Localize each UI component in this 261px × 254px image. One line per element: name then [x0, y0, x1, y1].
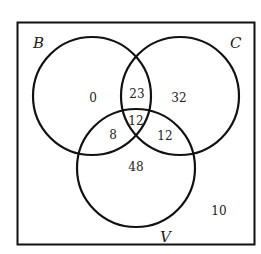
- region-b-c-v: 12: [128, 114, 143, 128]
- region-b-and-c: 23: [129, 87, 144, 101]
- set-label-b: B: [32, 34, 44, 52]
- region-b-only: 0: [89, 91, 97, 105]
- region-b-and-v: 8: [109, 128, 117, 142]
- region-c-and-v: 12: [157, 129, 172, 143]
- region-outside: 10: [211, 204, 226, 218]
- region-c-only: 32: [171, 91, 186, 105]
- set-label-c: C: [230, 34, 242, 52]
- set-label-v: V: [160, 228, 173, 246]
- region-v-only: 48: [128, 160, 143, 174]
- venn-diagram: B C V 0 32 23 12 8 12 48 10: [0, 0, 261, 254]
